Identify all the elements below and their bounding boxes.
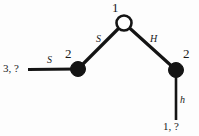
edge-label-left-apex: S: [96, 34, 101, 44]
node-right[interactable]: [169, 63, 184, 78]
node-label-left: 2: [65, 47, 72, 60]
edge-label-right-terminal: h: [180, 95, 185, 105]
edge-label-apex-right: H: [150, 34, 157, 44]
diagram-canvas: 1 2 2 S S H h 3, ? 1, ?: [0, 0, 199, 136]
edge-apex-right-line: [124, 23, 176, 70]
graph-svg: [0, 0, 199, 136]
node-label-right: 2: [183, 47, 190, 60]
node-apex[interactable]: [117, 16, 132, 31]
node-left[interactable]: [71, 62, 86, 77]
edge-label-left-terminal: S: [47, 55, 52, 65]
edge-left-apex-line: [78, 23, 124, 69]
terminal-label-bottom: 1, ?: [163, 121, 179, 132]
terminal-label-left: 3, ?: [3, 63, 19, 74]
node-label-apex: 1: [112, 1, 119, 14]
